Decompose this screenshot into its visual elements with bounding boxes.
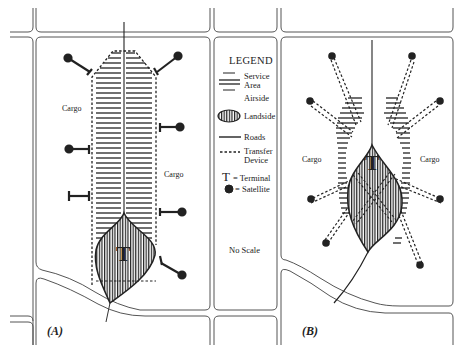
legend-roads-label: Roads (244, 133, 265, 142)
panel-a-terminal-label: T (116, 243, 131, 265)
panel-a-cargo-left: Cargo (62, 105, 81, 113)
panel-a-label: (A) (47, 325, 63, 337)
no-scale-label: No Scale (229, 246, 260, 255)
panel-b-terminal-label: T (365, 152, 380, 174)
legend-landside-label: Landside (244, 112, 275, 121)
panel-b-cargo-right: Cargo (420, 156, 439, 164)
panel-a-cargo-right: Cargo (164, 171, 183, 179)
legend-terminal-glyph: T (222, 170, 230, 183)
legend-airside-label: Airside (244, 94, 269, 103)
legend-satellite-label: = Satellite (235, 185, 270, 194)
panel-b-label: (B) (302, 325, 318, 337)
legend-transfer-device-label: Transfer Device (244, 147, 273, 165)
panel-b-cargo-left: Cargo (302, 156, 321, 164)
legend-title: LEGEND (229, 56, 273, 67)
legend-service-area-label: Service Area (244, 72, 270, 90)
legend-terminal-label: = Terminal (233, 174, 270, 183)
